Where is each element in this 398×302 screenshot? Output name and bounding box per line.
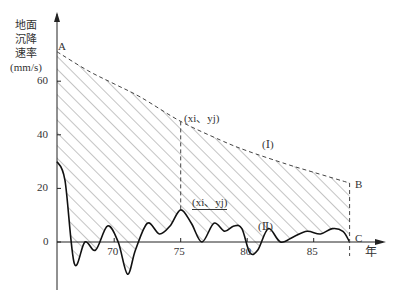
x-tick-label: 75: [174, 245, 185, 258]
x-tick-label: 80: [240, 245, 251, 258]
x-tick-label: 85: [307, 245, 318, 258]
x-tick-label: 70: [107, 245, 118, 258]
y-tick-label: 0: [43, 235, 49, 248]
upper-point-annotation: (xi、yj): [184, 112, 219, 125]
ylabel-line: 沉降: [4, 32, 48, 46]
ylabel-line: (mm/s): [4, 60, 48, 74]
point-a-label: A: [58, 40, 66, 53]
y-tick-label: 20: [37, 181, 48, 194]
curve-ii-label: (Ⅱ): [258, 220, 273, 233]
x-axis-label: 年: [365, 246, 377, 259]
point-b-label: B: [355, 178, 362, 191]
point-c-label: C: [355, 232, 362, 245]
lower-point-annotation: (xi、yj): [192, 196, 227, 210]
curve-i-label: (Ⅰ): [262, 138, 274, 151]
ylabel-line: 速率: [4, 46, 48, 60]
ylabel-line: 地面: [4, 18, 48, 32]
y-axis-label: 地面 沉降 速率 (mm/s): [4, 18, 48, 74]
y-tick-label: 40: [37, 128, 48, 141]
y-tick-label: 60: [37, 74, 48, 87]
